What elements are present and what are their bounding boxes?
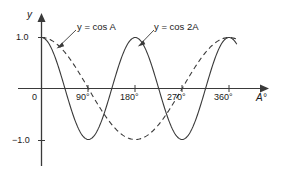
x-tick-label-360: 360°: [214, 93, 233, 102]
leader-line-cos-a: [57, 30, 77, 49]
x-tick-label-90: 90°: [76, 93, 90, 102]
y-tick-label-neg1: −1.0: [12, 136, 30, 145]
x-axis-label: A°: [256, 93, 267, 103]
y-tick-label-0: 0: [32, 93, 37, 102]
annotation-cos-2a-text: y = cos 2A: [154, 21, 199, 32]
y-tick-label-1: 1.0: [16, 33, 29, 42]
x-tick-label-270: 270°: [167, 93, 186, 102]
y-axis: [38, 13, 46, 166]
leader-line-cos-2a: [138, 30, 154, 47]
annotation-cos-a-text: y = cos A: [77, 21, 116, 32]
y-axis-label: y: [27, 10, 32, 20]
plot-canvas: [0, 0, 282, 187]
x-tick-label-180: 180°: [120, 93, 139, 102]
cosine-graph-figure: y A° 1.0 0 −1.0 90° 180° 270° 360° y = c…: [0, 0, 282, 187]
annotation-cos-a: y = cos A: [77, 22, 116, 32]
annotation-cos-2a: y = cos 2A: [154, 22, 199, 32]
